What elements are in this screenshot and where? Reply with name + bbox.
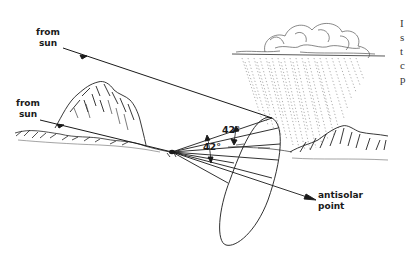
cutoff-letter: t: [400, 44, 406, 58]
storm-cloud: [232, 23, 385, 58]
label-line: from: [36, 27, 60, 38]
mountain-right: [290, 126, 388, 160]
antisolar-point-label: antisolar point: [318, 190, 363, 212]
rainbow-diagram: [0, 0, 408, 261]
angle-label-lower: 42°: [203, 141, 221, 152]
label-line: antisolar: [318, 190, 363, 201]
cutoff-letter: I: [400, 16, 406, 30]
label-line: sun: [36, 38, 60, 49]
angle-label-upper: 42°: [222, 124, 240, 135]
from-sun-label-lower: from sun: [16, 98, 40, 120]
cutoff-letter: c: [400, 58, 406, 72]
label-line: from: [16, 98, 40, 109]
label-line: sun: [16, 109, 40, 120]
label-line: point: [318, 201, 363, 212]
cutoff-caption-text: I s t c p: [400, 16, 406, 86]
cutoff-letter: p: [400, 72, 406, 86]
cutoff-letter: s: [400, 30, 406, 44]
from-sun-label-upper: from sun: [36, 27, 60, 49]
rainbow-cone: [172, 117, 316, 245]
foreground-ridge-left: [15, 130, 170, 152]
rain: [242, 58, 364, 150]
